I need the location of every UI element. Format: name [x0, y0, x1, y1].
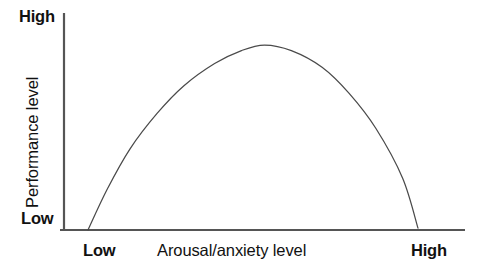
y-axis-high-label: High [19, 8, 55, 25]
x-axis-low-label: Low [83, 242, 115, 259]
x-axis-high-label: High [411, 242, 447, 259]
y-axis-low-label: Low [21, 210, 53, 227]
performance-curve [88, 45, 418, 230]
y-axis-title: Performance level [24, 28, 46, 208]
chart-plot-area [0, 0, 479, 270]
yerkes-dodson-chart: High Low Performance level Low Arousal/a… [0, 0, 479, 270]
x-axis-title: Arousal/anxiety level [157, 242, 306, 259]
